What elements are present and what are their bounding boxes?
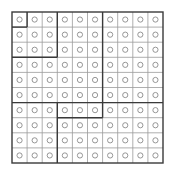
grid-cell-r4-c0[interactable]: [12, 72, 27, 87]
grid-cell-r5-c6[interactable]: [103, 88, 118, 103]
grid-cell-r2-c2[interactable]: [42, 42, 57, 57]
grid-cell-r9-c8[interactable]: [133, 148, 148, 163]
grid-cell-r1-c1[interactable]: [27, 27, 42, 42]
grid-cell-r0-c3[interactable]: [57, 12, 72, 27]
grid-cell-r2-c6[interactable]: [103, 42, 118, 57]
grid-cell-r6-c3[interactable]: [57, 103, 72, 118]
grid-cell-r7-c4[interactable]: [72, 118, 87, 133]
grid-cell-r9-c4[interactable]: [72, 148, 87, 163]
grid-cell-r9-c5[interactable]: [88, 148, 103, 163]
grid-cell-r8-c4[interactable]: [72, 133, 87, 148]
grid-cell-r7-c7[interactable]: [118, 118, 133, 133]
grid-cell-r8-c3[interactable]: [57, 133, 72, 148]
grid-cell-r7-c6[interactable]: [103, 118, 118, 133]
grid-cell-r6-c4[interactable]: [72, 103, 87, 118]
grid-cell-r7-c9[interactable]: [148, 118, 163, 133]
grid-cell-r0-c1[interactable]: [27, 12, 42, 27]
grid-cell-r4-c8[interactable]: [133, 72, 148, 87]
grid-cell-r3-c7[interactable]: [118, 57, 133, 72]
grid-cell-r0-c6[interactable]: [103, 12, 118, 27]
grid-cell-r4-c9[interactable]: [148, 72, 163, 87]
grid-cell-r3-c5[interactable]: [88, 57, 103, 72]
grid-cell-r0-c7[interactable]: [118, 12, 133, 27]
grid-cell-r5-c7[interactable]: [118, 88, 133, 103]
grid-cell-r8-c2[interactable]: [42, 133, 57, 148]
grid-cell-r1-c9[interactable]: [148, 27, 163, 42]
grid-cell-r6-c9[interactable]: [148, 103, 163, 118]
grid-cell-r1-c7[interactable]: [118, 27, 133, 42]
grid-cell-r8-c7[interactable]: [118, 133, 133, 148]
grid-cell-r7-c1[interactable]: [27, 118, 42, 133]
grid-cell-r2-c1[interactable]: [27, 42, 42, 57]
grid-cell-r2-c8[interactable]: [133, 42, 148, 57]
grid-cell-r9-c6[interactable]: [103, 148, 118, 163]
grid-cell-r1-c2[interactable]: [42, 27, 57, 42]
grid-cell-r1-c0[interactable]: [12, 27, 27, 42]
grid-cell-r8-c5[interactable]: [88, 133, 103, 148]
grid-cell-r0-c2[interactable]: [42, 12, 57, 27]
grid-cell-r8-c0[interactable]: [12, 133, 27, 148]
grid-cell-r0-c0[interactable]: [12, 12, 27, 27]
grid-cell-r6-c7[interactable]: [118, 103, 133, 118]
grid-cell-r9-c3[interactable]: [57, 148, 72, 163]
grid-cell-r3-c0[interactable]: [12, 57, 27, 72]
grid-cell-r6-c2[interactable]: [42, 103, 57, 118]
grid-cell-r3-c2[interactable]: [42, 57, 57, 72]
grid-cell-r4-c3[interactable]: [57, 72, 72, 87]
grid-cell-r6-c0[interactable]: [12, 103, 27, 118]
grid-cell-r2-c0[interactable]: [12, 42, 27, 57]
grid-cell-r5-c8[interactable]: [133, 88, 148, 103]
grid-cell-r6-c1[interactable]: [27, 103, 42, 118]
grid-cell-r0-c8[interactable]: [133, 12, 148, 27]
grid-cell-r3-c8[interactable]: [133, 57, 148, 72]
grid-cell-r2-c5[interactable]: [88, 42, 103, 57]
grid-cell-r8-c8[interactable]: [133, 133, 148, 148]
grid-cell-r9-c2[interactable]: [42, 148, 57, 163]
grid-cell-r2-c9[interactable]: [148, 42, 163, 57]
grid-cell-r6-c8[interactable]: [133, 103, 148, 118]
grid-cell-r0-c9[interactable]: [148, 12, 163, 27]
grid-cell-r9-c1[interactable]: [27, 148, 42, 163]
grid-cell-r1-c3[interactable]: [57, 27, 72, 42]
grid-cell-r9-c0[interactable]: [12, 148, 27, 163]
grid-cell-r4-c6[interactable]: [103, 72, 118, 87]
grid-cell-r3-c9[interactable]: [148, 57, 163, 72]
grid-cell-r7-c3[interactable]: [57, 118, 72, 133]
grid-cell-r3-c3[interactable]: [57, 57, 72, 72]
grid-cell-r5-c0[interactable]: [12, 88, 27, 103]
grid-cell-r7-c2[interactable]: [42, 118, 57, 133]
grid-cell-r4-c2[interactable]: [42, 72, 57, 87]
grid-cell-r5-c4[interactable]: [72, 88, 87, 103]
grid-cell-r4-c1[interactable]: [27, 72, 42, 87]
grid-cell-r8-c9[interactable]: [148, 133, 163, 148]
grid-cell-r6-c5[interactable]: [88, 103, 103, 118]
grid-cell-r4-c5[interactable]: [88, 72, 103, 87]
grid-cell-r2-c3[interactable]: [57, 42, 72, 57]
grid-cell-r3-c4[interactable]: [72, 57, 87, 72]
grid-cell-r5-c9[interactable]: [148, 88, 163, 103]
grid-cell-r9-c7[interactable]: [118, 148, 133, 163]
grid-cell-r1-c8[interactable]: [133, 27, 148, 42]
grid-cell-r3-c6[interactable]: [103, 57, 118, 72]
grid-cell-r1-c5[interactable]: [88, 27, 103, 42]
grid-cell-r2-c4[interactable]: [72, 42, 87, 57]
grid-cell-r4-c7[interactable]: [118, 72, 133, 87]
grid-cell-r7-c8[interactable]: [133, 118, 148, 133]
grid-cell-r0-c4[interactable]: [72, 12, 87, 27]
grid-cell-r5-c2[interactable]: [42, 88, 57, 103]
grid-cell-r6-c6[interactable]: [103, 103, 118, 118]
grid-cell-r1-c4[interactable]: [72, 27, 87, 42]
grid-cell-r5-c5[interactable]: [88, 88, 103, 103]
grid-cell-r1-c6[interactable]: [103, 27, 118, 42]
grid-cell-r9-c9[interactable]: [148, 148, 163, 163]
grid-cell-r3-c1[interactable]: [27, 57, 42, 72]
grid-cell-r8-c1[interactable]: [27, 133, 42, 148]
grid-cell-r5-c1[interactable]: [27, 88, 42, 103]
grid-cell-r8-c6[interactable]: [103, 133, 118, 148]
grid-cell-r2-c7[interactable]: [118, 42, 133, 57]
grid-cell-r4-c4[interactable]: [72, 72, 87, 87]
grid-cell-r7-c5[interactable]: [88, 118, 103, 133]
grid-cell-r0-c5[interactable]: [88, 12, 103, 27]
grid-cell-r7-c0[interactable]: [12, 118, 27, 133]
grid-cell-r5-c3[interactable]: [57, 88, 72, 103]
